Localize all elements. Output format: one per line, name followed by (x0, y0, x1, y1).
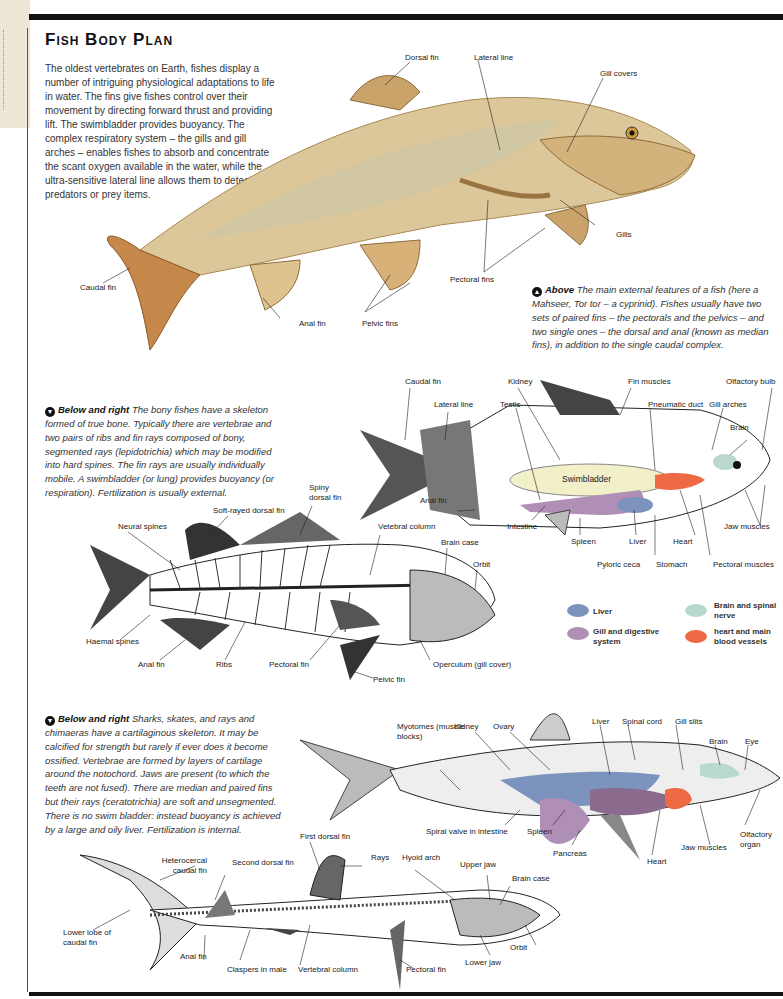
legend-heart-vessels: heart and main blood vessels (714, 627, 779, 647)
label-haemal-spines: Haemal spines (86, 637, 139, 647)
legend-liver: Liver (593, 607, 612, 617)
label-olfactory-bulb: Olfactory bulb (726, 377, 775, 387)
label-heart: Heart (673, 537, 693, 547)
label-swimbladder: Swimbladder (562, 474, 611, 484)
label-dorsal-fin: Dorsal fin (405, 53, 439, 63)
label-ovary: Ovary (493, 722, 514, 732)
label-kidney: Kidney (454, 722, 478, 732)
label-lower-jaw: Lower jaw (465, 958, 501, 968)
label-upper-jaw: Upper jaw (460, 860, 496, 870)
label-lower-lobe: Lower lobe of caudal fin (63, 928, 118, 948)
label-pneumatic-duct: Pneumatic duct (648, 400, 703, 410)
label-first-dorsal-fin: First dorsal fin (300, 832, 350, 842)
label-spinal-cord: Spinal cord (622, 717, 662, 727)
label-second-dorsal-fin: Second dorsal fin (232, 858, 294, 868)
label-caudal-fin: Caudal fin (405, 377, 441, 387)
label-stomach: Stomach (656, 560, 688, 570)
label-vertebral-column: Vetebral column (378, 522, 435, 532)
label-anal-fin: Anal fin (138, 660, 165, 670)
label-liver: Liver (592, 717, 609, 727)
label-pectoral-muscles: Pectoral muscles (713, 560, 774, 570)
label-pelvic-fin: Pelvic fin (373, 675, 405, 685)
caption-above: ▲Above The main external features of a f… (532, 283, 777, 352)
legend-swatch-heart-vessels (685, 630, 707, 643)
label-intestine: Intestine (507, 522, 537, 532)
label-brain-case: Brain case (512, 874, 550, 884)
label-spleen: Spleen (527, 827, 552, 837)
label-brain: Brain (730, 423, 749, 433)
label-pectoral-fin: Pectoral fin (269, 660, 309, 670)
label-lateral-line: Lateral line (434, 400, 473, 410)
label-olfactory-organ: Olfactory organ (740, 830, 775, 850)
label-ribs: Ribs (216, 660, 232, 670)
label-vertebral-column: Vertebral column (298, 965, 358, 975)
label-jaw-muscles: Jaw muscles (681, 843, 727, 853)
label-spiral-valve: Spiral valve in intestine (426, 827, 508, 837)
label-gill-arches: Gill arches (709, 400, 747, 410)
label-jaw-muscles: Jaw muscles (724, 522, 770, 532)
label-kidney: Kidney (508, 377, 532, 387)
arrow-down-icon: ▼ (45, 407, 55, 417)
label-claspers: Claspers in male (227, 965, 287, 975)
label-caudal-fin: Caudal fin (80, 283, 116, 293)
label-heterocercal-caudal-fin: Heterocercal caudal fin (157, 856, 207, 876)
label-orbit: Orbit (510, 943, 527, 953)
label-testis: Testis (500, 400, 520, 410)
label-lateral-line: Lateral line (474, 53, 513, 63)
caption-cartilaginous: ▼Below and right Sharks, skates, and ray… (45, 712, 285, 836)
legend-brain-nerve: Brain and spinal nerve (714, 601, 779, 621)
label-gill-slits: Gill slits (675, 717, 703, 727)
arrow-up-icon: ▲ (532, 287, 542, 297)
label-orbit: Orbit (473, 560, 490, 570)
label-heart: Heart (647, 857, 667, 867)
legend-swatch-gill-digestive (567, 627, 589, 640)
bony-fish-skeleton (90, 512, 495, 680)
label-anal-fin: Anal fin (299, 319, 326, 329)
label-anal-fin: Anal fin (420, 496, 447, 506)
legend-swatch-brain-nerve (685, 604, 707, 617)
caption-bony-fishes: ▼Below and right The bony fishes have a … (45, 403, 280, 500)
label-spleen: Spleen (571, 537, 596, 547)
legend-swatch-liver (567, 604, 589, 617)
label-eye: Eye (745, 737, 759, 747)
label-brain: Brain (709, 737, 728, 747)
label-gills: Gills (616, 230, 632, 240)
label-rays: Rays (371, 853, 389, 863)
label-pyloric-ceca: Pyloric ceca (597, 560, 640, 570)
label-pectoral-fin: Pectoral fin (406, 965, 446, 975)
label-operculum: Operculum (gill cover) (433, 660, 511, 670)
label-brain-case: Brain case (441, 538, 479, 548)
label-pelvic-fins: Pelvic fins (362, 319, 398, 329)
label-pancreas: Pancreas (553, 849, 587, 859)
label-pectoral-fins: Pectoral fins (450, 275, 494, 285)
legend-gill-digestive: Gill and digestive system (593, 627, 673, 647)
label-neural-spines: Neural spines (118, 522, 167, 532)
label-anal-fin: Anal fin (180, 952, 207, 962)
label-spiny-dorsal-fin: Spiny dorsal fin (309, 483, 349, 503)
label-soft-rayed-dorsal-fin: Soft-rayed dorsal fin (213, 506, 285, 516)
label-liver: Liver (629, 537, 646, 547)
arrow-down-icon: ▼ (45, 716, 55, 726)
label-hyoid-arch: Hyoid arch (402, 853, 440, 863)
label-fin-muscles: Fin muscles (628, 377, 671, 387)
label-gill-covers: Gill covers (600, 69, 637, 79)
